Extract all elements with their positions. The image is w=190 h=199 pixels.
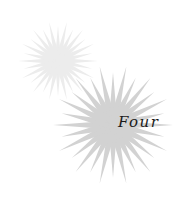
large-starburst-icon: [0, 0, 190, 199]
chapter-title: Four: [118, 113, 159, 131]
